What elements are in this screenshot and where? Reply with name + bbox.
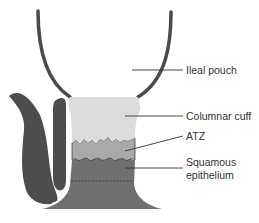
ileal-pouch-wall-left bbox=[38, 11, 70, 97]
columnar-cuff bbox=[69, 97, 141, 144]
label-columnar-cuff: Columnar cuff bbox=[186, 110, 251, 122]
external-sphincter bbox=[9, 93, 57, 204]
label-squamous-line1: Squamous bbox=[186, 156, 236, 168]
ileal-pouch-wall-right bbox=[138, 12, 171, 97]
label-squamous-line2: epithelium bbox=[186, 169, 234, 181]
internal-sphincter bbox=[53, 98, 66, 191]
label-ileal-pouch: Ileal pouch bbox=[186, 64, 237, 76]
label-atz: ATZ bbox=[186, 130, 205, 142]
